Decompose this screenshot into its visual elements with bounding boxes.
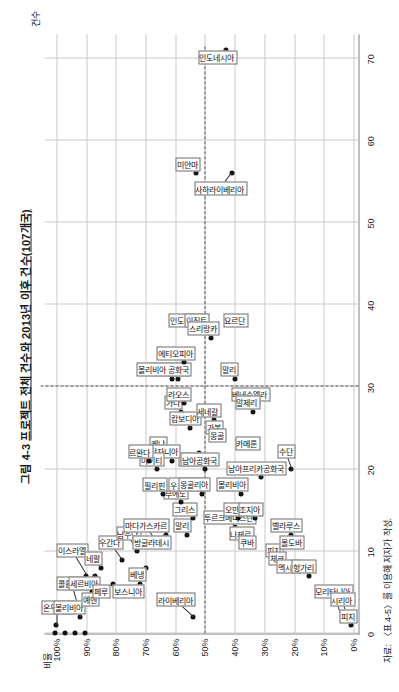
point-label-callout: 르완다 xyxy=(128,444,153,458)
point-label-callout: 방글라데시 xyxy=(132,535,171,549)
marker-dot xyxy=(52,630,57,635)
point-label-text: 볼리비아 xyxy=(54,605,82,613)
point-label-text: 남아프리카공화국 xyxy=(227,465,283,473)
point-label-callout: 에티오피아 xyxy=(156,346,195,360)
point-label-text: 알제리 xyxy=(236,400,257,408)
plot-area: 온두라스콜롬비아볼리비아이스라엘세르비아예멘네팔페루우간다보스니아남수단베냉마다… xyxy=(44,34,359,634)
point-label-callout: 이스라엘 xyxy=(56,543,88,557)
point-label-callout: 남아프리카공화국 xyxy=(226,461,286,475)
point-label-text: 필리핀 xyxy=(144,482,165,490)
x-tick-label: 40 xyxy=(365,300,375,310)
marker-dot xyxy=(72,630,77,635)
point-label-callout: 필리핀 xyxy=(142,477,167,491)
point-label-callout: 조지아 xyxy=(238,502,263,516)
point-label-text: 볼리비아 xyxy=(217,482,245,490)
x-tick-label: 60 xyxy=(365,136,375,146)
point-label-text: 말리 xyxy=(174,523,188,531)
point-label-callout: 볼리비아 xyxy=(53,600,85,614)
point-label-text: 몰도바 xyxy=(280,539,301,547)
point-label-text: 카메룬 xyxy=(236,441,257,449)
point-label-callout: 몰도바 xyxy=(279,535,304,549)
point-label-text: 스리랑카 xyxy=(188,326,216,334)
point-label-text: 몽골 xyxy=(210,433,224,441)
point-label-callout: 카메룬 xyxy=(235,436,260,450)
point-label-callout: 벨라루스 xyxy=(270,518,302,532)
point-label-text: 네팔 xyxy=(85,556,99,564)
gridline-y-60% xyxy=(175,34,176,633)
y-tick-label: 0% xyxy=(348,638,358,670)
point-label-text: 조지아 xyxy=(239,507,260,515)
point-label-text: 이스라엘 xyxy=(57,548,85,556)
point-label-callout: 알제리 xyxy=(235,395,260,409)
point-label-text: 미얀마 xyxy=(176,161,197,169)
point-label-text: 방글라데시 xyxy=(134,539,169,547)
gridline-y-10% xyxy=(323,34,324,633)
x-axis-title: 건수 xyxy=(28,10,41,26)
point-label-text: 몽골리아 xyxy=(179,482,207,490)
y-tick-label: 50% xyxy=(199,638,209,670)
gridline-y-40% xyxy=(234,34,235,633)
point-label-text: 볼리비아 공화국 xyxy=(137,367,188,375)
point-label-text: 마다가스카르 xyxy=(124,523,166,531)
point-label-callout: 세네갈 xyxy=(196,403,221,417)
y-tick-label: 10% xyxy=(318,638,328,670)
x-tick-label: 70 xyxy=(365,54,375,64)
point-label-text: 헝가리 xyxy=(292,564,313,572)
point-label-text: 베냉 xyxy=(129,572,143,580)
point-label-callout: 수단 xyxy=(277,444,295,458)
point-label-callout: 라오스 xyxy=(166,387,191,401)
y-tick-label: 60% xyxy=(170,638,180,670)
figure-page: 그림 4-3 프로젝트 전체 건수와 2013년 이후 건수(107개국) 온두… xyxy=(0,0,399,692)
point-label-text: 오만 xyxy=(224,507,238,515)
point-label-text: 쿠바 xyxy=(239,539,253,547)
source-note: 자료: 〈표 4-5〉를 이용해 저자가 작성. xyxy=(380,517,393,662)
point-label-text: 캄보디아 xyxy=(170,416,198,424)
point-label-callout: 말리 xyxy=(220,362,238,376)
gridline-x-20 xyxy=(44,468,358,469)
y-tick-label: 80% xyxy=(110,638,120,670)
point-label-callout: 쿠바 xyxy=(238,535,256,549)
point-label-callout: 그리스 xyxy=(172,502,197,516)
point-label-text: 르완다 xyxy=(129,449,150,457)
point-label-callout: 요르단 xyxy=(223,313,248,327)
point-label-callout: 몽골리아 xyxy=(178,477,210,491)
point-label-text: 벨라루스 xyxy=(271,523,299,531)
point-label-callout: 사하라이베리아 xyxy=(194,181,247,195)
point-label-text: 에티오피아 xyxy=(157,350,192,358)
x-tick-label: 20 xyxy=(365,465,375,475)
point-label-callout: 남아공화국 xyxy=(180,452,219,466)
point-label-text: 수단 xyxy=(278,449,292,457)
point-label-text: 사하라이베리아 xyxy=(195,186,244,194)
point-label-callout: 미얀마 xyxy=(175,157,200,171)
marker-dot xyxy=(62,630,67,635)
point-label-callout: 보스니아 xyxy=(112,584,144,598)
point-label-callout: 라이베리아 xyxy=(156,592,195,606)
point-label-text: 요르단 xyxy=(224,317,245,325)
point-label-text: 남아공화국 xyxy=(181,457,216,465)
x-tick-label: 10 xyxy=(365,547,375,557)
y-tick-label: 90% xyxy=(81,638,91,670)
point-label-text: 라이베리아 xyxy=(157,597,192,605)
point-label-callout: 스리랑카 xyxy=(187,321,219,335)
figure-title: 그림 4-3 프로젝트 전체 건수와 2013년 이후 건수(107개국) xyxy=(16,0,32,692)
y-tick-label: 70% xyxy=(140,638,150,670)
figure-title-main: 프로젝트 전체 건수와 2013년 이후 건수(107개국) xyxy=(19,209,31,440)
gridline-x-50 xyxy=(44,221,358,222)
marker-legend-dots xyxy=(52,630,92,635)
figure-title-prefix: 그림 4-3 xyxy=(19,443,31,483)
y-tick-label: 30% xyxy=(259,638,269,670)
point-label-text: 세네갈 xyxy=(197,408,218,416)
gridline-x-60 xyxy=(44,139,358,140)
point-label-text: 페루 xyxy=(94,589,108,597)
point-label-callout: 네팔 xyxy=(84,551,102,565)
y-tick-label: 20% xyxy=(289,638,299,670)
y-axis-title: 비율 xyxy=(40,652,53,668)
point-label-callout: 말리 xyxy=(173,518,191,532)
reference-line-vertical xyxy=(40,385,358,386)
point-label-text: 그리스 xyxy=(173,507,194,515)
point-label-text: 라오스 xyxy=(167,391,188,399)
point-label-text: 말리 xyxy=(221,367,235,375)
point-label-callout: 시리아 xyxy=(330,592,355,606)
gridline-y-0% xyxy=(353,34,354,633)
rotated-figure-canvas: 그림 4-3 프로젝트 전체 건수와 2013년 이후 건수(107개국) 온두… xyxy=(0,0,399,692)
